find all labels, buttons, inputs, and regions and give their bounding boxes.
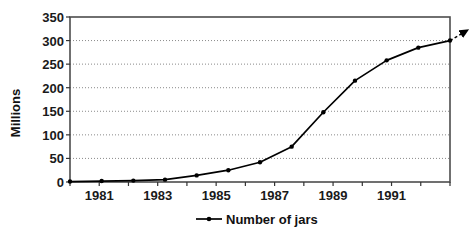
data-point — [131, 178, 135, 182]
y-tick-label: 200 — [42, 81, 64, 96]
data-point — [353, 78, 357, 82]
data-point — [194, 173, 198, 177]
y-tick-label: 150 — [42, 104, 64, 119]
data-point — [258, 160, 262, 164]
data-point — [321, 110, 325, 114]
chart-svg: Millions 350 300 250 200 150 100 50 0 — [0, 0, 471, 240]
data-point — [163, 177, 167, 181]
y-tick-label: 100 — [42, 128, 64, 143]
data-point — [68, 179, 72, 183]
x-tick-label: 1985 — [202, 188, 231, 203]
legend-label-number-of-jars: Number of jars — [226, 212, 318, 227]
y-tick-label: 50 — [50, 151, 64, 166]
line-chart: Millions 350 300 250 200 150 100 50 0 — [0, 0, 471, 240]
data-point — [226, 168, 230, 172]
y-tick-label: 0 — [57, 175, 64, 190]
x-tick-label: 1981 — [85, 188, 114, 203]
y-tick-label: 300 — [42, 34, 64, 49]
data-point — [384, 58, 388, 62]
x-tick-label: 1989 — [319, 188, 348, 203]
y-tick-label: 250 — [42, 57, 64, 72]
x-tick-label: 1983 — [143, 188, 172, 203]
y-axis-title: Millions — [8, 89, 23, 137]
data-point — [289, 144, 293, 148]
data-point — [416, 45, 420, 49]
data-point — [99, 179, 103, 183]
legend-marker-dot — [207, 217, 212, 222]
y-tick-label: 350 — [42, 10, 64, 25]
x-tick-label: 1991 — [377, 188, 406, 203]
x-tick-label: 1987 — [260, 188, 289, 203]
